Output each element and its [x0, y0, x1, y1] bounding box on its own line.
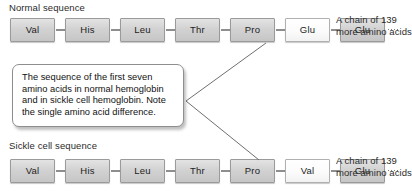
- sickle-cell-sequence-residue-5: Pro: [230, 159, 275, 183]
- normal-sequence-peptide-bond-1: [56, 29, 65, 31]
- sickle-cell-sequence-peptide-bond-1: [56, 170, 65, 172]
- sickle-cell-sequence-tail-label: A chain of 139 more amino acids: [336, 155, 412, 178]
- sickle-cell-sequence-residue-2: His: [65, 159, 110, 183]
- leader-line-top: [186, 43, 266, 101]
- sickle-cell-sequence-residue-4: Thr: [175, 159, 220, 183]
- normal-sequence-residue-4: Thr: [175, 18, 220, 42]
- sickle-cell-sequence-figure: Normal sequence ValHisLeuThrProGluGlu A …: [0, 0, 412, 191]
- sickle-cell-sequence-caption: Sickle cell sequence: [9, 140, 97, 151]
- sickle-cell-sequence-residue-1: Val: [10, 159, 55, 183]
- normal-sequence-residue-6: Glu: [285, 18, 330, 42]
- normal-sequence-peptide-bond-3: [166, 29, 175, 31]
- normal-sequence-peptide-bond-4: [221, 29, 230, 31]
- sickle-cell-sequence-peptide-bond-4: [221, 170, 230, 172]
- sickle-cell-sequence-peptide-bond-2: [111, 170, 120, 172]
- sickle-cell-sequence-peptide-bond-5: [276, 170, 285, 172]
- normal-sequence-residue-1: Val: [10, 18, 55, 42]
- sickle-cell-sequence-residue-6: Val: [285, 159, 330, 183]
- normal-sequence-residue-3: Leu: [120, 18, 165, 42]
- leader-line-bottom: [186, 101, 259, 160]
- normal-sequence-residue-2: His: [65, 18, 110, 42]
- sickle-cell-sequence-peptide-bond-3: [166, 170, 175, 172]
- normal-sequence-peptide-bond-2: [111, 29, 120, 31]
- normal-sequence-caption: Normal sequence: [9, 2, 85, 13]
- normal-sequence-tail-label: A chain of 139 more amino acids: [336, 14, 412, 37]
- callout-box: The sequence of the first seven amino ac…: [12, 64, 184, 127]
- normal-sequence-peptide-bond-5: [276, 29, 285, 31]
- sickle-cell-sequence-residue-3: Leu: [120, 159, 165, 183]
- normal-sequence-residue-5: Pro: [230, 18, 275, 42]
